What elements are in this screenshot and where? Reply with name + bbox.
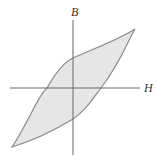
h-axis-label: H — [143, 81, 154, 95]
b-axis-label: B — [71, 5, 79, 19]
hysteresis-diagram: B H — [0, 0, 157, 161]
